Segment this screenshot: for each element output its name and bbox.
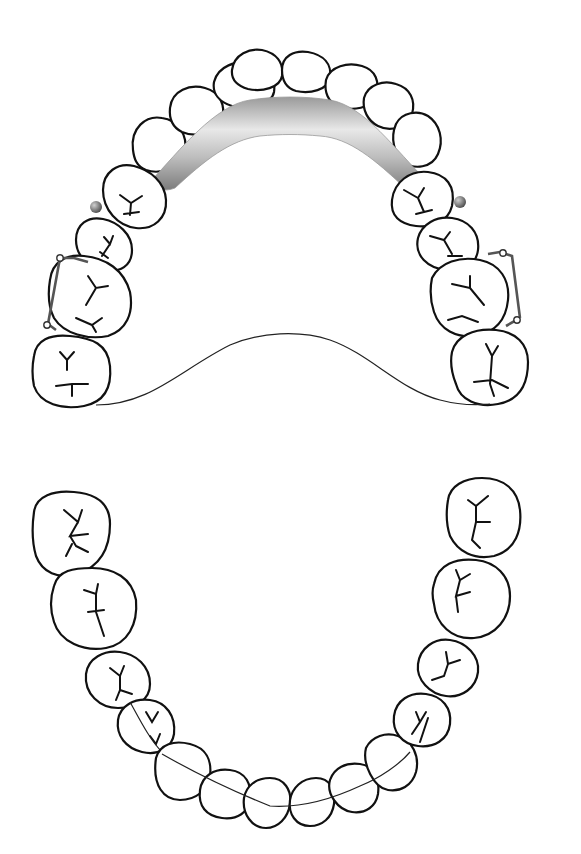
- upper-arch: [33, 50, 529, 408]
- right-ball-rest: [454, 196, 466, 208]
- tooth-lower-left-central: [244, 778, 291, 828]
- lower-arch: [33, 478, 521, 828]
- left-ball-rest: [90, 201, 102, 213]
- upper-left-posterior-teeth: [33, 165, 167, 407]
- dental-diagram: [0, 0, 581, 854]
- tooth-upper-central-right: [282, 52, 330, 92]
- tooth-lower-left-first-molar: [51, 568, 136, 649]
- tooth-upper-central-left: [232, 50, 282, 90]
- tooth-lower-right-second-premolar: [418, 640, 478, 697]
- tooth-upper-right-first-molar: [431, 259, 509, 337]
- tooth-lower-right-second-molar: [447, 478, 521, 557]
- tooth-upper-right-second-molar: [451, 330, 528, 405]
- posterior-palatal-border: [96, 334, 490, 405]
- tooth-lower-right-first-molar: [433, 560, 511, 639]
